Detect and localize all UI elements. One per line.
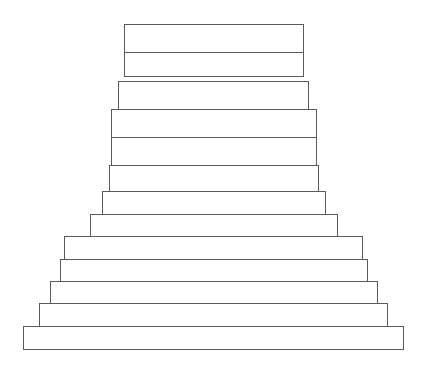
pyramid-diagram [0, 0, 427, 369]
pyramid-block [124, 24, 304, 53]
pyramid-block [60, 259, 368, 282]
pyramid-block [23, 326, 404, 350]
pyramid-block [111, 109, 317, 138]
pyramid-block [111, 137, 317, 166]
pyramid-block [90, 214, 338, 238]
pyramid-block [39, 303, 388, 327]
pyramid-block [50, 281, 378, 304]
pyramid-block [102, 191, 326, 215]
pyramid-block [124, 52, 304, 77]
pyramid-block [118, 81, 309, 110]
pyramid-block [109, 165, 319, 192]
pyramid-block [64, 236, 363, 260]
